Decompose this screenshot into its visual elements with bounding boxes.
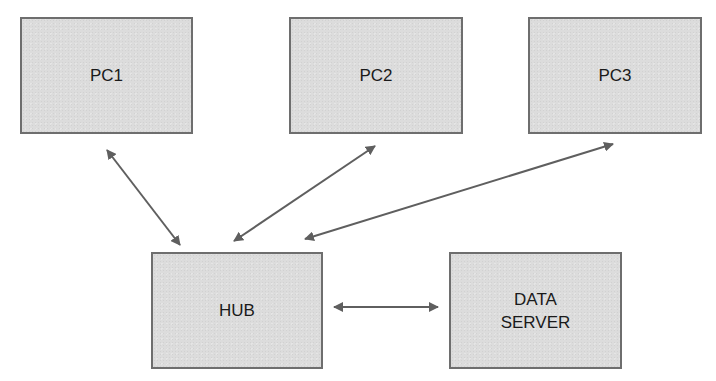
arrow-pc1-hub [107,150,180,245]
hub-node: HUB [151,252,323,369]
data-server-node: DATA SERVER [449,252,622,369]
pc2-label: PC2 [359,64,392,87]
arrow-pc3-hub [305,144,613,239]
pc3-node: PC3 [528,17,702,134]
pc3-label: PC3 [598,64,631,87]
pc2-node: PC2 [289,17,463,134]
pc1-node: PC1 [20,17,193,134]
hub-label: HUB [219,299,255,322]
data-server-label: DATA SERVER [501,288,571,334]
pc1-label: PC1 [90,64,123,87]
arrow-pc2-hub [234,146,375,241]
